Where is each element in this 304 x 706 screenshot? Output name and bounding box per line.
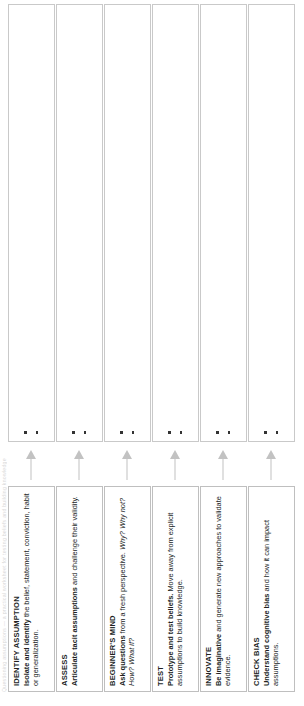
arrow-shaft xyxy=(127,458,128,480)
marker-group xyxy=(120,431,134,434)
square-marker-icon xyxy=(24,431,27,434)
step-row: TESTPrototype and test beliefs. Move awa… xyxy=(152,4,199,692)
step-card-test: TESTPrototype and test beliefs. Move awa… xyxy=(152,486,199,692)
arrow-right-icon xyxy=(8,442,55,486)
step-description-lead: Be imaginative xyxy=(214,634,223,686)
arrow-head xyxy=(170,450,180,459)
response-box-beginners-mind[interactable] xyxy=(104,4,151,442)
arrow-right-icon xyxy=(56,442,103,486)
step-row: INNOVATEBe imaginative and generate new … xyxy=(200,4,247,692)
step-description-lead: Articulate tacit assumptions xyxy=(70,587,79,686)
arrow-right-icon xyxy=(200,442,247,486)
step-description-lead: Ask questions xyxy=(118,635,127,686)
response-box-assess[interactable] xyxy=(56,4,103,442)
response-box-identify-assumption[interactable] xyxy=(8,4,55,442)
response-box-innovate[interactable] xyxy=(200,4,247,442)
arrow-right-icon xyxy=(248,442,295,486)
marker-group xyxy=(72,431,86,434)
step-description-lead: Prototype and test beliefs. xyxy=(166,594,175,686)
step-description-lead: Understand cognitive bias xyxy=(262,594,271,686)
step-row: ASSESSArticulate tacit assumptions and c… xyxy=(56,4,103,692)
square-marker-icon xyxy=(228,431,231,434)
square-marker-icon xyxy=(120,431,123,434)
step-description: Articulate tacit assumptions and challen… xyxy=(70,493,79,686)
square-marker-icon xyxy=(276,431,279,434)
marker-group xyxy=(168,431,182,434)
step-description-rest: from a fresh perspective. xyxy=(118,552,127,635)
step-description: Understand cognitive bias and how it can… xyxy=(262,493,281,686)
step-title: CHECK BIAS xyxy=(252,493,261,686)
response-box-check-bias[interactable] xyxy=(248,4,295,442)
arrow-shaft xyxy=(175,458,176,480)
step-card-innovate: INNOVATEBe imaginative and generate new … xyxy=(200,486,247,692)
square-marker-icon xyxy=(36,431,39,434)
step-title: TEST xyxy=(156,493,165,686)
step-card-beginners-mind: BEGINNER'S MINDAsk questions from a fres… xyxy=(104,486,151,692)
square-marker-icon xyxy=(72,431,75,434)
step-card-assess: ASSESSArticulate tacit assumptions and c… xyxy=(56,486,103,692)
arrow-right-icon xyxy=(104,442,151,486)
arrow-head xyxy=(266,450,276,459)
square-marker-icon xyxy=(216,431,219,434)
diagram-canvas: Questioning assumptions — a practical wo… xyxy=(0,0,304,706)
step-title: IDENTIFY ASSUMPTION xyxy=(12,493,21,686)
arrow-shaft xyxy=(271,458,272,480)
arrow-shaft xyxy=(79,458,80,480)
step-title: INNOVATE xyxy=(204,493,213,686)
step-row: CHECK BIASUnderstand cognitive bias and … xyxy=(248,4,295,692)
step-row: BEGINNER'S MINDAsk questions from a fres… xyxy=(104,4,151,692)
step-description: Isolate and identify the belief, stateme… xyxy=(22,493,41,686)
marker-group xyxy=(24,431,38,434)
running-head: Questioning assumptions — a practical wo… xyxy=(1,12,7,692)
step-row: IDENTIFY ASSUMPTIONIsolate and identify … xyxy=(8,4,55,692)
arrow-shaft xyxy=(31,458,32,480)
square-marker-icon xyxy=(264,431,267,434)
marker-group xyxy=(216,431,230,434)
arrow-right-icon xyxy=(152,442,199,486)
steps-list: IDENTIFY ASSUMPTIONIsolate and identify … xyxy=(8,4,300,692)
step-card-identify-assumption: IDENTIFY ASSUMPTIONIsolate and identify … xyxy=(8,486,55,692)
step-description: Be imaginative and generate new approach… xyxy=(214,493,233,686)
arrow-head xyxy=(74,450,84,459)
response-box-test[interactable] xyxy=(152,4,199,442)
step-card-check-bias: CHECK BIASUnderstand cognitive bias and … xyxy=(248,486,295,692)
square-marker-icon xyxy=(84,431,87,434)
arrow-shaft xyxy=(223,458,224,480)
step-description: Ask questions from a fresh perspective. … xyxy=(118,493,137,686)
arrow-head xyxy=(26,450,36,459)
step-description: Prototype and test beliefs. Move away fr… xyxy=(166,493,185,686)
step-title: BEGINNER'S MIND xyxy=(108,493,117,686)
step-description-lead: Isolate and identify xyxy=(22,619,31,686)
square-marker-icon xyxy=(132,431,135,434)
square-marker-icon xyxy=(180,431,183,434)
step-title: ASSESS xyxy=(60,493,69,686)
step-description-rest: and challenge their validity. xyxy=(70,496,79,587)
marker-group xyxy=(264,431,278,434)
arrow-head xyxy=(218,450,228,459)
arrow-head xyxy=(122,450,132,459)
square-marker-icon xyxy=(168,431,171,434)
